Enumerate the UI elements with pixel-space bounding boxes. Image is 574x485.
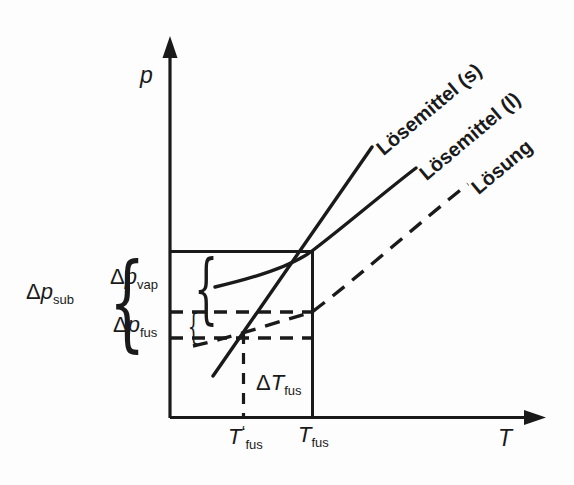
diagram-canvas: [0, 0, 574, 485]
t-fus-symbol: T: [298, 422, 311, 447]
x-axis-label: T: [498, 427, 512, 450]
label-t-fus-prime: T‘fus: [228, 424, 263, 451]
t-fus-prime-subscript: fus: [245, 437, 262, 452]
delta-p-fus-delta: Δ: [113, 312, 128, 337]
label-delta-p-sub: Δpsub: [26, 281, 74, 306]
label-delta-p-fus: Δpfus: [113, 314, 157, 339]
label-delta-p-vap: Δpvap: [110, 266, 158, 291]
t-fus-subscript: fus: [311, 435, 328, 450]
delta-p-vap-delta: Δ: [110, 264, 125, 289]
delta-t-fus-symbol: T: [271, 370, 284, 395]
brace-delta-p-fus: {: [188, 309, 199, 345]
delta-t-fus-subscript: fus: [284, 383, 301, 398]
label-delta-t-fus: ΔTfus: [256, 372, 302, 397]
label-t-fus: Tfus: [298, 424, 329, 449]
delta-t-fus-delta: Δ: [256, 370, 271, 395]
delta-p-sub-symbol: p: [41, 279, 53, 304]
t-fus-prime-symbol: T: [228, 424, 241, 449]
delta-p-vap-subscript: vap: [137, 277, 158, 292]
y-axis-label: p: [140, 64, 153, 87]
delta-p-vap-symbol: p: [125, 264, 137, 289]
delta-p-sub-subscript: sub: [53, 292, 74, 307]
y-axis: [163, 36, 178, 418]
delta-p-sub-delta: Δ: [26, 279, 41, 304]
phase-diagram-figure: p T Lösemittel (s) Lösemittel (l) Lösung…: [0, 0, 574, 485]
delta-p-fus-subscript: fus: [140, 325, 157, 340]
delta-p-fus-symbol: p: [128, 312, 140, 337]
x-axis: [170, 410, 546, 425]
